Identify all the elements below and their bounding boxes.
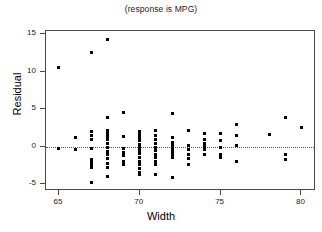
data-point (154, 173, 157, 176)
data-point (203, 138, 206, 141)
x-axis-tick (58, 190, 59, 195)
data-point (171, 136, 174, 139)
data-point (235, 134, 238, 137)
data-point (284, 116, 287, 119)
data-point (122, 147, 125, 150)
data-point (74, 148, 77, 151)
plot-area (45, 30, 315, 190)
data-point (154, 163, 157, 166)
data-point (90, 51, 93, 54)
data-point (90, 147, 93, 150)
x-axis-tick (220, 190, 221, 195)
x-axis-tick (139, 190, 140, 195)
data-point (57, 147, 60, 150)
data-point (154, 142, 157, 145)
data-point (284, 158, 287, 161)
data-point (106, 138, 109, 141)
data-point (106, 146, 109, 149)
data-point (90, 134, 93, 137)
data-point (138, 163, 141, 166)
y-axis-tick (40, 71, 45, 72)
data-point (74, 136, 77, 139)
data-point (122, 111, 125, 114)
y-axis-tick (40, 146, 45, 147)
scatter-points-layer (46, 31, 314, 189)
data-point (57, 66, 60, 69)
data-point (154, 149, 157, 152)
data-point (187, 163, 190, 166)
data-point (106, 142, 109, 145)
y-axis-tick (40, 183, 45, 184)
data-point (219, 146, 222, 149)
data-point (106, 157, 109, 160)
data-point (203, 148, 206, 151)
data-point (268, 133, 271, 136)
data-point (138, 167, 141, 170)
data-point (122, 163, 125, 166)
data-point (171, 153, 174, 156)
data-point (171, 176, 174, 179)
data-point (187, 148, 190, 151)
y-axis-tick-label: -5 (14, 179, 36, 187)
data-point (154, 153, 157, 156)
data-point (138, 160, 141, 163)
data-point (300, 126, 303, 129)
y-axis-tick-label: 0 (14, 142, 36, 150)
y-axis-tick-label: 15 (14, 29, 36, 37)
data-point (122, 135, 125, 138)
data-point (90, 130, 93, 133)
data-point (138, 139, 141, 142)
y-axis-tick (40, 33, 45, 34)
data-point (90, 181, 93, 184)
data-point (235, 160, 238, 163)
data-point (154, 138, 157, 141)
residual-plot-figure: (response is MPG) -5051015 65707580 Widt… (0, 0, 322, 232)
x-axis-tick-label: 80 (287, 198, 313, 206)
data-point (106, 162, 109, 165)
data-point (154, 156, 157, 159)
data-point (106, 150, 109, 153)
data-point (90, 166, 93, 169)
data-point (203, 132, 206, 135)
data-point (138, 173, 141, 176)
data-point (219, 139, 222, 142)
data-point (187, 129, 190, 132)
data-point (122, 154, 125, 157)
data-point (187, 144, 190, 147)
data-point (106, 38, 109, 41)
data-point (171, 156, 174, 159)
data-point (90, 138, 93, 141)
x-axis-tick-label: 70 (126, 198, 152, 206)
data-point (106, 166, 109, 169)
data-point (219, 156, 222, 159)
data-point (106, 175, 109, 178)
data-point (138, 152, 141, 155)
x-axis-tick-label: 65 (45, 198, 71, 206)
x-axis-title: Width (0, 210, 322, 222)
data-point (284, 153, 287, 156)
y-axis-tick (40, 108, 45, 109)
data-point (235, 144, 238, 147)
data-point (235, 123, 238, 126)
data-point (122, 160, 125, 163)
data-point (171, 112, 174, 115)
x-axis-tick-label: 75 (207, 198, 233, 206)
data-point (187, 153, 190, 156)
data-point (106, 116, 109, 119)
data-point (203, 153, 206, 156)
x-axis-tick (300, 190, 301, 195)
data-point (187, 157, 190, 160)
y-axis-title: Residual (11, 49, 23, 139)
data-point (138, 156, 141, 159)
data-point (154, 129, 157, 132)
data-point (106, 153, 109, 156)
data-point (106, 135, 109, 138)
chart-subtitle: (response is MPG) (0, 4, 322, 14)
data-point (219, 132, 222, 135)
data-point (154, 134, 157, 137)
